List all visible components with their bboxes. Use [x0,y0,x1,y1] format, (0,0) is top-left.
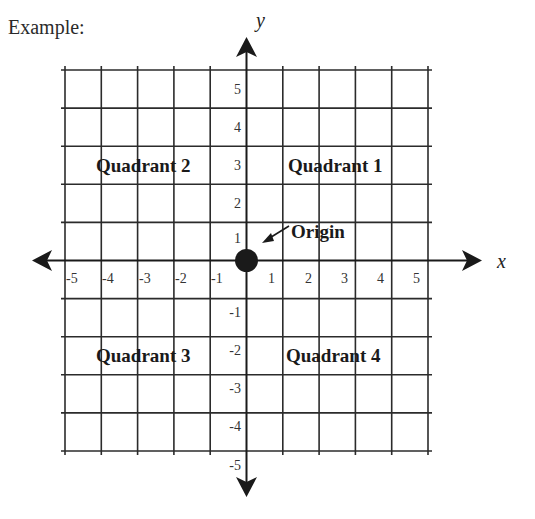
x-tick-label: -3 [139,271,151,286]
y-tick-label: -3 [229,381,241,396]
x-tick-label: -4 [102,271,114,286]
quadrant-2-label: Quadrant 2 [96,155,191,176]
quadrant-4-label: Quadrant 4 [286,345,381,366]
origin-point [235,249,258,272]
x-axis-label: x [496,250,506,272]
coordinate-plane-figure: Example: [0,0,535,519]
x-tick-label: 1 [268,271,275,286]
coordinate-plane: x y -5 -4 -3 -2 -1 1 2 3 4 5 5 4 3 2 [0,0,535,519]
y-tick-labels: 5 4 3 2 1 -1 -2 -3 -4 -5 [229,82,241,473]
origin-label: Origin [291,221,345,242]
x-tick-labels: -5 -4 -3 -2 -1 1 2 3 4 5 [66,271,420,286]
quadrant-1-label: Quadrant 1 [288,155,383,176]
y-tick-label: -4 [229,419,241,434]
y-axis-label: y [254,9,265,32]
y-tick-label: -2 [229,343,241,358]
x-tick-label: 5 [413,271,420,286]
x-tick-label: 2 [305,271,312,286]
y-tick-label: 3 [234,158,241,173]
x-tick-label: -1 [211,271,223,286]
x-tick-label: 3 [341,271,348,286]
y-tick-label: -1 [229,305,241,320]
y-tick-label: -5 [229,458,241,473]
origin-annotation: Origin [262,221,345,243]
x-axis: x [32,250,506,272]
origin-arrow-icon [262,233,274,243]
x-tick-label: -2 [175,271,187,286]
quadrant-3-label: Quadrant 3 [96,345,191,366]
y-tick-label: 4 [234,120,241,135]
x-tick-label: 4 [377,271,384,286]
y-tick-label: 2 [234,196,241,211]
y-tick-label: 5 [234,82,241,97]
x-tick-label: -5 [66,271,78,286]
y-tick-label: 1 [234,231,241,246]
